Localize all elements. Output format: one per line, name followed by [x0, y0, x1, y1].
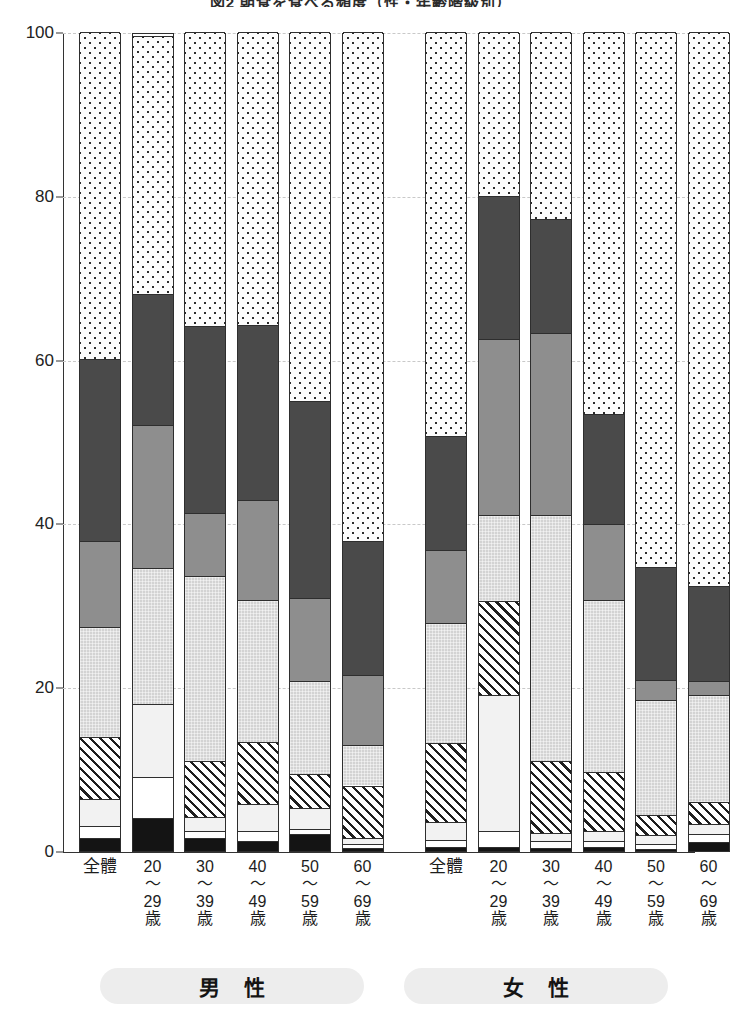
- bar-segment-segment-4: [426, 743, 466, 822]
- bar-segment-segment-3: [584, 831, 624, 841]
- bar-segment-segment-2: [185, 831, 225, 838]
- y-tick-label-80: 80: [35, 187, 54, 207]
- x-category-label-8: 30 〜 39 歳: [521, 858, 581, 927]
- bar-segment-segment-4: [689, 802, 729, 824]
- y-tick-label-40: 40: [35, 514, 54, 534]
- bar-segment-segment-5: [426, 623, 466, 743]
- bar-segment-segment-7: [479, 196, 519, 339]
- group-banner-male: 男 性: [100, 968, 364, 1004]
- bar-segment-segment-6: [479, 339, 519, 515]
- bar-segment-segment-7: [689, 586, 729, 681]
- bar-segment-segment-5: [689, 695, 729, 801]
- bar-segment-segment-8: [426, 32, 466, 436]
- bar-男性-50〜59歳[interactable]: [289, 33, 331, 852]
- x-category-label-4: 50 〜 59 歳: [280, 858, 340, 927]
- bar-女性-50〜59歳[interactable]: [635, 33, 677, 852]
- bar-男性-30〜39歳[interactable]: [184, 33, 226, 852]
- bar-segment-segment-1: [426, 847, 466, 851]
- bar-segment-segment-2: [238, 831, 278, 841]
- bar-segment-segment-8: [689, 32, 729, 586]
- chart-title: 図2 朝食を食べる頻度（性・年齢階級別）: [0, 0, 722, 7]
- bar-segment-segment-7: [343, 541, 383, 675]
- bar-segment-segment-2: [343, 844, 383, 847]
- x-category-label-5: 60 〜 69 歳: [333, 858, 393, 927]
- x-category-label-2: 30 〜 39 歳: [175, 858, 235, 927]
- bar-segment-segment-8: [238, 32, 278, 325]
- bar-男性-20〜29歳[interactable]: [132, 33, 174, 852]
- bar-segment-segment-8: [531, 32, 571, 219]
- bar-segment-segment-3: [238, 804, 278, 832]
- bar-segment-segment-8: [343, 32, 383, 541]
- bar-segment-segment-8: [290, 32, 330, 401]
- bar-segment-segment-4: [185, 761, 225, 817]
- y-tick-mark-0: [56, 852, 63, 853]
- bar-segment-segment-4: [479, 601, 519, 695]
- y-tick-label-60: 60: [35, 351, 54, 371]
- bar-segment-segment-4: [238, 742, 278, 803]
- bar-segment-segment-7: [290, 401, 330, 598]
- x-category-label-11: 60 〜 69 歳: [679, 858, 734, 927]
- bar-segment-segment-1: [479, 847, 519, 851]
- bar-segment-segment-5: [584, 600, 624, 771]
- y-axis-line: [63, 33, 64, 852]
- x-category-label-7: 20 〜 29 歳: [469, 858, 529, 927]
- x-category-label-0: 全體: [70, 858, 130, 876]
- y-tick-mark-80: [56, 196, 63, 197]
- bar-segment-segment-5: [185, 576, 225, 761]
- bar-segment-segment-7: [238, 325, 278, 500]
- bar-男性-40〜49歳[interactable]: [237, 33, 279, 852]
- bar-segment-segment-6: [531, 333, 571, 515]
- bar-segment-segment-7: [636, 567, 676, 680]
- y-tick-label-100: 100: [26, 23, 54, 43]
- bar-女性-20〜29歳[interactable]: [478, 33, 520, 852]
- bar-segment-segment-4: [636, 815, 676, 835]
- bar-segment-segment-3: [531, 833, 571, 841]
- bar-segment-segment-7: [80, 359, 120, 541]
- gridline-0: [63, 852, 695, 853]
- bar-segment-segment-3: [80, 799, 120, 825]
- y-tick-mark-20: [56, 688, 63, 689]
- bar-segment-segment-5: [636, 700, 676, 815]
- bar-segment-segment-3: [185, 817, 225, 831]
- bar-segment-segment-3: [343, 838, 383, 845]
- bar-segment-segment-5: [531, 515, 571, 761]
- bar-segment-segment-1: [80, 838, 120, 851]
- bar-segment-segment-2: [80, 826, 120, 838]
- bar-segment-segment-3: [689, 824, 729, 834]
- bar-segment-segment-6: [185, 513, 225, 576]
- bar-segment-segment-6: [80, 541, 120, 627]
- bar-segment-segment-6: [343, 675, 383, 745]
- bar-女性-30〜39歳[interactable]: [530, 33, 572, 852]
- bar-segment-segment-8: [80, 32, 120, 359]
- bar-segment-segment-6: [636, 680, 676, 700]
- bar-segment-segment-1: [238, 841, 278, 851]
- bar-segment-segment-1: [689, 842, 729, 851]
- x-category-label-3: 40 〜 49 歳: [228, 858, 288, 927]
- x-category-label-6: 全體: [416, 858, 476, 876]
- y-tick-label-0: 0: [45, 842, 54, 862]
- bar-segment-segment-3: [479, 695, 519, 830]
- bar-segment-segment-1: [290, 834, 330, 851]
- bar-segment-segment-2: [531, 841, 571, 848]
- bar-segment-segment-6: [133, 425, 173, 568]
- bar-segment-segment-3: [426, 822, 466, 840]
- x-category-label-9: 40 〜 49 歳: [574, 858, 634, 927]
- bar-女性-60〜69歳[interactable]: [688, 33, 730, 852]
- y-tick-mark-100: [56, 33, 63, 34]
- bar-segment-segment-5: [80, 627, 120, 738]
- bar-segment-segment-3: [290, 808, 330, 829]
- bar-segment-segment-8: [584, 32, 624, 414]
- bar-segment-segment-1: [531, 848, 571, 851]
- bar-segment-segment-2: [290, 829, 330, 834]
- bar-segment-segment-2: [426, 840, 466, 847]
- bar-男性-全體[interactable]: [79, 33, 121, 852]
- bar-男性-60〜69歳[interactable]: [342, 33, 384, 852]
- bar-segment-segment-4: [531, 761, 571, 833]
- y-tick-mark-40: [56, 524, 63, 525]
- bar-segment-segment-4: [290, 774, 330, 808]
- bar-segment-segment-6: [426, 550, 466, 622]
- bar-segment-segment-8: [479, 32, 519, 196]
- bar-segment-segment-2: [584, 841, 624, 847]
- bar-女性-全體[interactable]: [425, 33, 467, 852]
- bar-女性-40〜49歳[interactable]: [583, 33, 625, 852]
